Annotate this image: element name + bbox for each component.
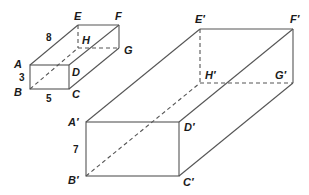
label-E-prime: E′ xyxy=(195,13,206,25)
dimension-width: 5 xyxy=(46,93,52,104)
label-H-prime: H′ xyxy=(205,69,217,81)
small-prism: A B C D E F G H 8 3 5 xyxy=(13,10,133,104)
label-H: H xyxy=(82,34,91,46)
label-E: E xyxy=(74,10,82,22)
large-edge-ae xyxy=(86,29,200,122)
label-C: C xyxy=(72,88,81,100)
label-D-prime: D′ xyxy=(184,121,196,133)
label-F-prime: F′ xyxy=(290,13,301,25)
small-hidden-bh xyxy=(30,48,78,89)
large-hidden-bh xyxy=(86,83,200,176)
label-G: G xyxy=(124,44,133,56)
label-B-prime: B′ xyxy=(68,174,80,186)
dimension-depth: 8 xyxy=(46,32,52,43)
small-front-face xyxy=(30,65,69,89)
dimension-height-large: 7 xyxy=(73,144,79,155)
label-G-prime: G′ xyxy=(275,69,288,81)
prism-diagram: A B C D E F G H 8 3 5 A′ B′ C′ D′ E′ F′ … xyxy=(0,0,309,195)
label-A-prime: A′ xyxy=(67,116,80,128)
small-edge-df xyxy=(69,25,119,65)
large-edge-cg xyxy=(179,83,293,176)
dimension-height: 3 xyxy=(19,72,25,83)
large-front-face xyxy=(86,122,179,176)
label-C-prime: C′ xyxy=(183,176,195,188)
label-A: A xyxy=(13,58,22,70)
small-edge-ae xyxy=(30,25,78,65)
label-B: B xyxy=(14,86,22,98)
label-F: F xyxy=(115,10,122,22)
label-D: D xyxy=(72,66,80,78)
